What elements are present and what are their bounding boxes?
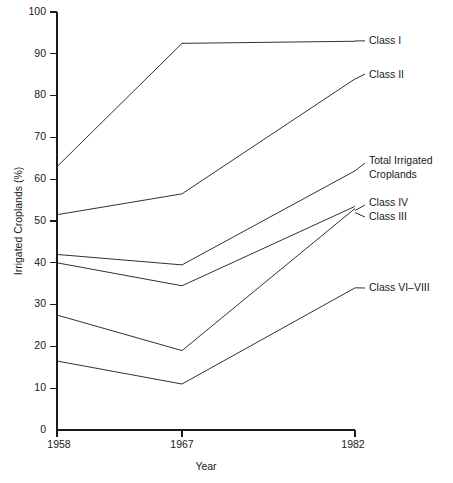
series-line-class-vi-viii xyxy=(57,288,355,384)
x-axis-title: Year xyxy=(195,460,217,472)
series-label-class-iii: Class III xyxy=(369,210,407,222)
y-tick-label-0: 0 xyxy=(40,423,46,435)
y-tick-label-20: 20 xyxy=(34,339,46,351)
y-tick-label-70: 70 xyxy=(34,130,46,142)
series-label-class-i: Class I xyxy=(369,34,401,46)
series-line-class-iii xyxy=(57,208,355,350)
leader-line-class-ii xyxy=(355,74,365,79)
leader-line-class-iii xyxy=(355,213,365,217)
x-tick-label-1982: 1982 xyxy=(341,438,365,450)
y-axis-title: Irrigated Croplands (%) xyxy=(12,167,24,276)
y-tick-label-60: 60 xyxy=(34,172,46,184)
y-tick-label-40: 40 xyxy=(34,256,46,268)
leader-line-class-iv xyxy=(355,205,365,211)
line-chart: 100 90 80 70 60 50 40 30 20 10 0 1958 19… xyxy=(0,0,453,483)
series-line-class-i xyxy=(57,41,355,166)
y-tick-label-100: 100 xyxy=(28,5,46,17)
y-tick-label-50: 50 xyxy=(34,214,46,226)
chart-canvas: 100 90 80 70 60 50 40 30 20 10 0 1958 19… xyxy=(0,0,453,483)
series-line-class-iv xyxy=(57,206,355,285)
x-tick-label-1958: 1958 xyxy=(47,438,71,450)
leader-line-total-irrigated xyxy=(355,163,365,171)
y-tick-label-10: 10 xyxy=(34,381,46,393)
y-tick-label-80: 80 xyxy=(34,88,46,100)
series-label-class-ii: Class II xyxy=(369,68,404,80)
y-tick-label-30: 30 xyxy=(34,297,46,309)
series-line-total-irrigated-croplands xyxy=(57,171,355,265)
series-label-class-iv: Class IV xyxy=(369,196,408,208)
series-label-total-irrigated-line1: Total Irrigated xyxy=(369,154,433,166)
series-label-total-irrigated-line2: Croplands xyxy=(369,168,417,180)
x-tick-label-1967: 1967 xyxy=(170,438,194,450)
series-label-class-vi-viii: Class VI–VIII xyxy=(369,281,430,293)
y-tick-label-90: 90 xyxy=(34,47,46,59)
series-line-class-ii xyxy=(57,79,355,215)
